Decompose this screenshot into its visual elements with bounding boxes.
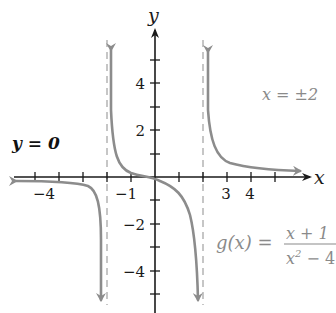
tick-label-y-2: 2 [135,122,145,140]
curve-right-branch [208,52,300,171]
function-numerator: x + 1 [286,224,329,243]
tick-label-x-minus-4: −4 [33,185,55,203]
tick-label-x-minus-1: −1 [115,185,137,203]
vertical-asymptote-label: x = ±2 [262,85,318,104]
function-lhs: g(x) = [216,232,273,253]
function-denominator: x2 − 4 [286,248,335,268]
horizontal-asymptote-label: y = 0 [11,133,60,153]
curve-left-branch [16,181,101,300]
function-label: g(x) = x + 1 x2 − 4 [216,224,336,268]
chart: y x −4 −1 3 4 4 2 −2 −4 y = 0 x = ±2 g(x… [0,0,336,313]
axes [14,30,310,313]
tick-label-y-minus-4: −4 [123,263,145,281]
tick-label-x-3: 3 [221,185,231,203]
y-axis-label: y [147,4,159,26]
tick-label-x-4: 4 [245,185,255,203]
tick-label-y-4: 4 [135,75,145,93]
tick-label-y-minus-2: −2 [123,216,145,234]
x-axis-label: x [314,166,325,188]
